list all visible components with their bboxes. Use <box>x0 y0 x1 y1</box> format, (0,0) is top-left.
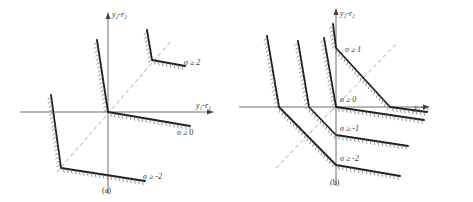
boundary-group-a <box>48 30 191 185</box>
hatch-mark <box>148 60 152 63</box>
hatch-mark <box>279 108 280 112</box>
hatch-mark <box>315 114 316 118</box>
hatch-mark <box>363 79 365 83</box>
hatch-mark <box>290 120 291 124</box>
region-label-b-sigma-neg1: σ ≥ -1 <box>340 124 359 133</box>
diagonal-dashed-line-b <box>276 42 398 168</box>
hatch-mark <box>371 88 373 92</box>
caption-a: (a) <box>102 186 111 195</box>
hatch-mark <box>334 134 336 138</box>
hatch-mark <box>287 117 288 121</box>
hatch-mark <box>327 157 329 161</box>
hatch-mark <box>368 85 370 89</box>
hatch-mark <box>352 67 354 71</box>
y-axis-arrow-icon <box>106 12 111 19</box>
region-label-a-sigma-2: σ ≥ 2 <box>184 58 200 67</box>
hatch-mark <box>315 146 317 150</box>
boundary-a-sigma-2 <box>147 30 185 66</box>
hatch-mark <box>296 126 297 130</box>
hatch-mark <box>344 58 346 62</box>
region-label-a-sigma-neg2: σ ≥ -2 <box>143 172 162 181</box>
hatch-mark <box>310 140 311 144</box>
hatch-mark <box>328 129 330 133</box>
hatch-mark <box>357 73 359 77</box>
boundary-a-sigma-neg2-hatching <box>48 97 144 185</box>
boundary-a-sigma-neg2 <box>51 95 145 181</box>
hatch-mark <box>379 97 381 101</box>
hatch-mark <box>384 103 386 107</box>
hatch-mark <box>387 106 389 110</box>
hatch-mark <box>285 114 286 118</box>
x-axis-label-a: y₁-r₁ <box>195 101 211 110</box>
hatch-mark <box>347 61 349 65</box>
hatch-mark <box>293 123 294 127</box>
hatch-mark <box>376 94 378 98</box>
y-axis-label-a: y₂-r₂ <box>111 10 127 19</box>
boundary-b-sigma-neg2 <box>267 36 400 176</box>
hatch-mark <box>317 117 319 121</box>
hatch-mark <box>307 137 308 141</box>
hatch-mark <box>324 154 326 158</box>
hatch-mark <box>339 52 341 56</box>
hatch-mark <box>332 163 334 167</box>
caption-b: (b) <box>330 178 340 187</box>
hatch-mark <box>366 82 368 86</box>
hatch-mark <box>349 64 351 68</box>
hatch-mark <box>341 55 343 59</box>
hatch-mark <box>312 111 314 115</box>
region-label-b-sigma-neg2: σ ≥ -2 <box>340 154 359 163</box>
hatch-mark <box>299 128 300 132</box>
region-label-b-sigma-0: σ ≥ 0 <box>340 95 356 104</box>
hatch-mark <box>313 143 314 147</box>
region-label-b-sigma-1: σ ≥ 1 <box>345 45 361 54</box>
hatch-mark <box>382 100 384 104</box>
x-axis-label-b: y₁-r₁ <box>413 103 429 112</box>
figure-canvas: y₁-r₁ y₂-r₂ σ ≥ 2 σ ≥ 0 σ ≥ -2 (a) y₁-r₁… <box>0 0 473 202</box>
hatch-mark <box>301 131 302 135</box>
hatch-mark <box>309 108 311 112</box>
panel-b: y₁-r₁ y₂-r₂ σ ≥ 1 σ ≥ 0 σ ≥ -1 σ ≥ -2 (b… <box>239 8 430 187</box>
hatch-mark <box>329 160 331 164</box>
hatch-mark <box>321 151 323 155</box>
hatch-mark <box>318 148 320 152</box>
hatch-mark <box>282 111 283 115</box>
hatch-mark <box>374 91 376 95</box>
hatch-mark <box>331 132 333 136</box>
hatch-mark <box>323 123 325 127</box>
panel-a: y₁-r₁ y₂-r₂ σ ≥ 2 σ ≥ 0 σ ≥ -2 (a) <box>20 10 214 195</box>
boundary-a-sigma-0 <box>97 40 190 126</box>
hatch-mark <box>326 126 327 130</box>
region-label-a-sigma-0: σ ≥ 0 <box>177 128 193 137</box>
y-axis-arrow-icon <box>334 8 339 15</box>
y-axis-label-b: y₂-r₂ <box>339 9 355 18</box>
x-axis-arrow-icon <box>207 110 214 115</box>
hatch-mark <box>355 70 357 74</box>
boundary-b-sigma-neg2-hatching <box>264 38 399 180</box>
